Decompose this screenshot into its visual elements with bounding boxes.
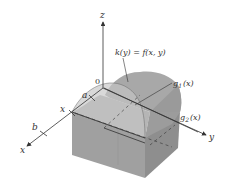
svg-text:g2(x): g2(x) xyxy=(180,113,201,123)
g2-label: g2(x) xyxy=(180,113,201,123)
volume-by-slicing-diagram: z y x 0 a x b k(y) = f(x, y) g1(x) g2(x) xyxy=(0,0,225,185)
k-function-label: k(y) = f(x, y) xyxy=(115,48,166,57)
origin-label: 0 xyxy=(95,77,100,86)
tick-a-label: a xyxy=(82,90,87,100)
z-axis-label: z xyxy=(99,10,105,20)
svg-text:g1(x): g1(x) xyxy=(173,79,194,89)
y-axis-label: y xyxy=(208,132,215,142)
tick-x-label: x xyxy=(60,104,65,114)
g1-label: g1(x) xyxy=(173,79,194,89)
tick-b-label: b xyxy=(32,122,38,132)
x-axis-label: x xyxy=(20,145,25,155)
